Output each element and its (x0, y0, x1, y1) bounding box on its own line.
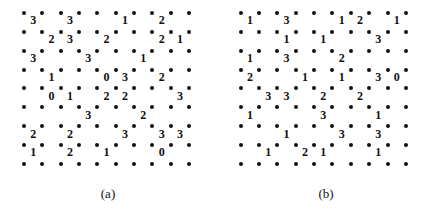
grid-dot (349, 162, 353, 166)
grid-dot (404, 105, 408, 109)
cell-clue: 3 (314, 106, 332, 124)
cell-clue: 2 (351, 11, 369, 29)
grid-dot (367, 49, 371, 53)
cell-clue: 3 (278, 11, 296, 29)
cell-clue: 1 (241, 106, 259, 124)
grid-dot (349, 30, 353, 34)
grid-dot (386, 162, 390, 166)
grid-dot (294, 105, 298, 109)
cell-clue: 0 (388, 68, 406, 86)
grid-dot (239, 162, 243, 166)
cell-clue: 1 (296, 68, 314, 86)
cell-clue: 2 (314, 87, 332, 105)
grid-dot (312, 49, 316, 53)
grid-dot (257, 162, 261, 166)
cell-clue: 1 (369, 106, 387, 124)
cell-clue: 1 (333, 68, 351, 86)
cell-clue: 1 (278, 30, 296, 48)
cell-clue: 1 (241, 11, 259, 29)
cell-clue: 1 (314, 143, 332, 161)
grid-dot (349, 105, 353, 109)
cell-clue: 2 (351, 87, 369, 105)
grid-dot (257, 124, 261, 128)
grid-dot (239, 124, 243, 128)
grid-dot (404, 124, 408, 128)
grid-dot (404, 49, 408, 53)
grid-dot (330, 162, 334, 166)
cell-clue: 2 (333, 49, 351, 67)
cell-clue: 1 (314, 30, 332, 48)
cell-clue: 3 (278, 49, 296, 67)
grid-dot (239, 30, 243, 34)
grid-dot (404, 162, 408, 166)
caption-a: (a) (88, 186, 128, 202)
cell-clue: 3 (369, 125, 387, 143)
grid-dot (386, 86, 390, 90)
cell-clue: 1 (241, 49, 259, 67)
cell-clue: 3 (278, 87, 296, 105)
grid-dot (367, 162, 371, 166)
grid-dot (312, 11, 316, 15)
grid-dot (404, 143, 408, 147)
grid-dot (275, 68, 279, 72)
grid-dot (275, 162, 279, 166)
grid-dot (312, 162, 316, 166)
grid-dot (349, 143, 353, 147)
grid-dot (257, 30, 261, 34)
cell-clue: 3 (369, 68, 387, 86)
cell-clue: 3 (369, 30, 387, 48)
grid-dot (404, 86, 408, 90)
grid-dot (294, 162, 298, 166)
cell-clue: 1 (333, 11, 351, 29)
grid-dot (404, 30, 408, 34)
cell-clue: 1 (388, 11, 406, 29)
cell-clue: 3 (259, 87, 277, 105)
cell-clue: 2 (241, 68, 259, 86)
cell-clue: 1 (259, 143, 277, 161)
cell-clue: 1 (278, 125, 296, 143)
grid-dot (386, 49, 390, 53)
grid-dot (275, 105, 279, 109)
cell-clue: 1 (369, 143, 387, 161)
cell-clue: 2 (296, 143, 314, 161)
caption-b: (b) (306, 186, 346, 202)
puzzle-b: 131211131322113033221311331211 (0, 0, 200, 180)
grid-dot (239, 143, 243, 147)
grid-dot (239, 86, 243, 90)
cell-clue: 3 (333, 125, 351, 143)
grid-dot (312, 124, 316, 128)
